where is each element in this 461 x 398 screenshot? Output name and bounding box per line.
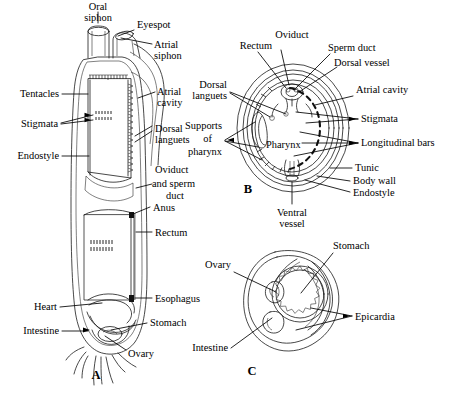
label-atrial-cavity-line1: Atrial <box>157 86 181 97</box>
esophagus-marker-a <box>129 295 134 302</box>
panel-letter-b: B <box>244 182 252 196</box>
label-oral-siphon-line2: siphon <box>84 12 113 23</box>
label-b-longitudinal-bars: Longitudinal bars <box>361 137 435 148</box>
label-b-supports-line1: Supports <box>185 120 222 131</box>
label-stomach: Stomach <box>150 317 187 328</box>
label-b-ventral-vessel-line1: Ventral <box>277 207 307 218</box>
label-tentacles: Tentacles <box>20 88 59 99</box>
label-b-dorsal-languets-line1: Dorsal <box>199 79 227 90</box>
label-ovary: Ovary <box>128 348 155 359</box>
label-b-dorsal-vessel: Dorsal vessel <box>334 57 390 68</box>
label-atrial-siphon-line1: Atrial <box>154 39 178 50</box>
label-b-atrial-cavity: Atrial cavity <box>356 84 409 95</box>
label-c-stomach: Stomach <box>333 240 370 251</box>
label-heart: Heart <box>34 301 57 312</box>
label-b-dorsal-languets-line2: languets <box>192 90 227 101</box>
label-atrial-siphon-line2: siphon <box>154 50 183 61</box>
label-dorsal-languets-line2: languets <box>155 134 190 145</box>
label-atrial-cavity-line2: cavity <box>157 97 183 108</box>
label-b-supports-line3: pharynx <box>188 146 223 157</box>
label-b-ventral-vessel-line2: vessel <box>279 218 305 229</box>
label-stigmata: Stigmata <box>21 118 58 129</box>
figure-background <box>0 0 461 398</box>
anatomy-figure: Oral siphon Eyespot Atrial siphon Tentac… <box>0 0 461 398</box>
label-dorsal-languets-line1: Dorsal <box>155 123 183 134</box>
label-c-ovary: Ovary <box>205 259 232 270</box>
label-b-pharynx: Pharynx <box>266 139 301 150</box>
label-oviduct-line2: and sperm <box>152 178 195 189</box>
label-esophagus: Esophagus <box>155 293 200 304</box>
label-endostyle: Endostyle <box>17 150 59 161</box>
label-b-body-wall: Body wall <box>353 175 396 186</box>
anus-marker-a <box>129 212 134 218</box>
label-b-endostyle: Endostyle <box>353 187 395 198</box>
panel-letter-c: C <box>247 364 256 378</box>
panel-letter-a: A <box>91 368 100 382</box>
label-b-oviduct: Oviduct <box>275 29 309 40</box>
label-oral-siphon-line1: Oral <box>89 1 108 12</box>
label-c-intestine: Intestine <box>192 342 228 353</box>
label-b-tunic: Tunic <box>355 162 379 173</box>
label-oviduct-line3: duct <box>166 190 184 201</box>
label-anus: Anus <box>153 202 175 213</box>
label-rectum: Rectum <box>155 227 187 238</box>
label-oviduct-line1: Oviduct <box>155 164 189 175</box>
label-b-rectum: Rectum <box>240 40 272 51</box>
label-intestine: Intestine <box>23 325 59 336</box>
label-c-epicardia: Epicardia <box>355 311 395 322</box>
label-b-sperm-duct: Sperm duct <box>328 42 376 53</box>
label-b-supports-line2: of <box>203 133 212 144</box>
label-eyespot: Eyespot <box>137 19 171 30</box>
label-b-stigmata: Stigmata <box>361 113 398 124</box>
